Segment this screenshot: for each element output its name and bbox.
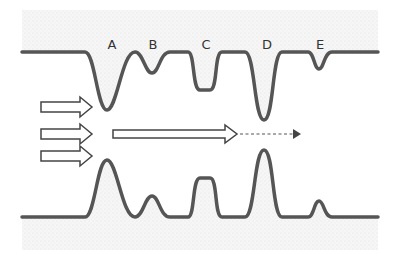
label-b: B [149, 37, 158, 52]
channel-diagram: A B C D E [0, 0, 398, 259]
label-c: C [201, 37, 210, 52]
label-d: D [262, 37, 272, 52]
label-e: E [316, 37, 324, 52]
label-a: A [108, 37, 117, 52]
